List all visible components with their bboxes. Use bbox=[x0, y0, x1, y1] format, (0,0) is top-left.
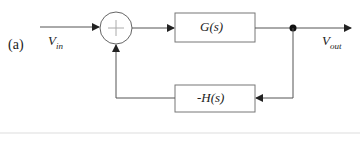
panel-label: (a) bbox=[8, 37, 24, 53]
feedback-block-label: -H(s) bbox=[197, 90, 224, 106]
forward-block-label: G(s) bbox=[200, 19, 223, 35]
output-label: Vout bbox=[322, 33, 341, 51]
block-diagram bbox=[0, 0, 360, 150]
input-label: Vin bbox=[48, 33, 63, 51]
